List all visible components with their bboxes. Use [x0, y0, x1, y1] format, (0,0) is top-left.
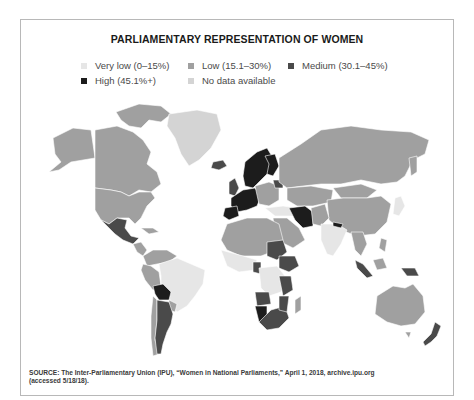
region-canada-arctic — [116, 104, 171, 128]
swatch-no-data — [188, 78, 194, 84]
legend-item-low: Low (15.1–30%) — [188, 60, 271, 71]
legend-item-high: High (45.1%+) — [81, 75, 156, 86]
swatch-high — [81, 78, 87, 84]
world-map — [21, 100, 453, 360]
legend-label: Medium (30.1–45%) — [302, 60, 388, 71]
region-caribbean — [141, 228, 159, 234]
region-borneo — [373, 258, 387, 270]
region-india — [321, 224, 347, 256]
region-canada — [95, 126, 161, 196]
source-line-2: (accessed 5/18/18). — [29, 377, 449, 385]
region-kamchatka — [409, 156, 417, 176]
region-mozambique — [279, 296, 289, 312]
region-central-america — [133, 242, 147, 256]
region-sumatra — [355, 260, 373, 278]
legend-label: No data available — [202, 75, 275, 86]
swatch-very-low — [81, 63, 87, 69]
region-iceland — [211, 160, 227, 170]
region-central-asia — [287, 186, 333, 206]
region-philippines — [379, 238, 387, 252]
region-argentina — [155, 300, 173, 354]
region-east-africa — [279, 276, 293, 296]
map-title: PARLIAMENTARY REPRESENTATION OF WOMEN — [21, 33, 453, 45]
region-australia — [375, 284, 425, 326]
region-alaska — [49, 128, 95, 172]
region-se-asia — [351, 232, 367, 256]
region-tasmania — [405, 332, 411, 338]
legend-label: Very low (0–15%) — [95, 60, 169, 71]
swatch-low — [188, 63, 194, 69]
region-iberia — [223, 206, 239, 220]
region-mongolia — [333, 184, 377, 198]
legend-label: Low (15.1–30%) — [202, 60, 271, 71]
region-greenland — [167, 110, 221, 166]
map-figure: PARLIAMENTARY REPRESENTATION OF WOMEN Ve… — [20, 19, 454, 396]
legend-item-medium: Medium (30.1–45%) — [288, 60, 388, 71]
region-russia — [279, 126, 429, 188]
legend: Very low (0–15%) Low (15.1–30%) Medium (… — [81, 60, 421, 100]
legend-item-no-data: No data available — [188, 75, 275, 86]
legend-label: High (45.1%+) — [95, 75, 156, 86]
region-japan — [393, 196, 405, 216]
source-note: SOURCE: The Inter-Parliamentary Union (I… — [29, 369, 449, 386]
region-new-zealand — [423, 322, 441, 346]
legend-item-very-low: Very low (0–15%) — [81, 60, 169, 71]
region-angola — [255, 292, 271, 306]
region-pakistan — [311, 204, 329, 226]
swatch-medium — [288, 63, 294, 69]
region-uk — [229, 178, 239, 196]
region-madagascar — [295, 296, 301, 314]
source-line-1: SOURCE: The Inter-Parliamentary Union (I… — [29, 369, 449, 377]
region-papua — [401, 268, 419, 276]
region-ethiopia — [279, 256, 299, 272]
